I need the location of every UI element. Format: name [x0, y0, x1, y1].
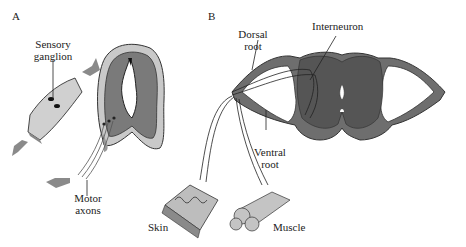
ventral-root-label: Ventral root: [250, 146, 290, 170]
sensory-ganglion-shape: [28, 60, 82, 144]
arrow-icon: [12, 140, 28, 156]
neural-tube-a: [98, 44, 165, 152]
interneuron-label: Interneuron: [312, 20, 363, 32]
sensory-ganglion-label: Sensory ganglion: [30, 38, 76, 62]
spinal-cord-b: [232, 52, 445, 140]
arrow-icon: [82, 58, 100, 76]
skin-label: Skin: [148, 221, 168, 233]
motor-axons-label: Motor axons: [70, 192, 106, 216]
muscle-label: Muscle: [273, 221, 305, 233]
skin-block: [162, 185, 218, 238]
dorsal-root-label: Dorsal root: [235, 28, 271, 52]
panel-b-letter: B: [208, 10, 215, 22]
arrow-icon: [46, 178, 70, 188]
panel-a-letter: A: [12, 10, 20, 22]
